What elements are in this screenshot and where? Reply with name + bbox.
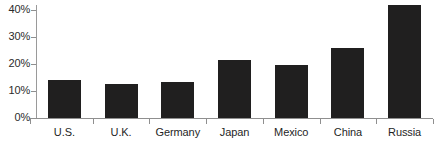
x-axis-label-china: China — [320, 126, 377, 138]
y-axis-tick-group: 20% — [0, 58, 30, 70]
y-axis-label-20: 20% — [0, 58, 30, 69]
x-axis-label-japan: Japan — [206, 126, 263, 138]
y-axis-label-30: 30% — [0, 31, 30, 42]
bar-u-k — [105, 84, 138, 118]
x-axis-label-u-k: U.K. — [93, 126, 150, 138]
x-axis-tick-mark — [206, 119, 207, 124]
bar-russia — [388, 5, 421, 118]
x-axis-tick-mark — [263, 119, 264, 124]
y-axis-tick-group: 30% — [0, 31, 30, 43]
x-axis-tick-mark — [376, 119, 377, 124]
y-axis-label-10: 10% — [0, 85, 30, 96]
y-axis-tick-group: 40% — [0, 4, 30, 16]
x-axis-label-germany: Germany — [149, 126, 206, 138]
x-axis-tick-mark — [149, 119, 150, 124]
bar-germany — [161, 82, 194, 118]
y-axis-label-40: 40% — [0, 4, 30, 15]
x-axis-label-russia: Russia — [376, 126, 433, 138]
y-axis-tick-group: 10% — [0, 85, 30, 97]
bar-japan — [218, 60, 251, 118]
x-axis-tick-mark — [320, 119, 321, 124]
bar-u-s — [48, 80, 81, 118]
x-axis-label-mexico: Mexico — [263, 126, 320, 138]
bar-chart: 40% 30% 20% 10% 0% U.S.U.K.GermanyJapanM… — [0, 0, 437, 147]
x-axis-end-tick — [30, 119, 31, 124]
x-axis-line — [30, 118, 433, 119]
bar-mexico — [275, 65, 308, 118]
x-axis-label-u-s: U.S. — [36, 126, 93, 138]
x-axis-tick-mark — [93, 119, 94, 124]
y-axis-label-0: 0% — [0, 112, 30, 123]
bar-china — [331, 48, 364, 118]
x-axis-end-tick — [433, 119, 434, 124]
y-axis-tick-group: 0% — [0, 112, 30, 124]
bars-layer — [36, 0, 433, 118]
